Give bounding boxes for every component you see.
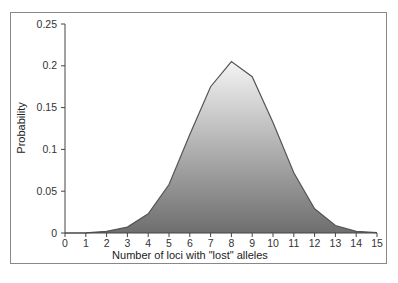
- x-ticks: 0123456789101112131415: [62, 233, 383, 249]
- x-tick-label: 2: [104, 237, 110, 249]
- probability-area: [65, 62, 377, 233]
- x-tick-label: 8: [228, 237, 234, 249]
- y-tick-label: 0.25: [37, 18, 58, 30]
- y-tick-label: 0: [51, 227, 57, 239]
- x-tick-label: 1: [83, 237, 89, 249]
- x-tick-label: 12: [309, 237, 321, 249]
- x-tick-label: 15: [371, 237, 383, 249]
- x-tick-label: 4: [145, 237, 151, 249]
- x-tick-label: 0: [62, 237, 68, 249]
- y-axis-label: Probability: [15, 102, 27, 154]
- x-tick-label: 5: [166, 237, 172, 249]
- area-chart: 00.050.10.150.20.25 01234567891011121314…: [0, 0, 398, 283]
- y-tick-label: 0.1: [42, 143, 57, 155]
- y-tick-label: 0.15: [37, 101, 58, 113]
- x-tick-label: 7: [208, 237, 214, 249]
- y-tick-label: 0.05: [37, 185, 58, 197]
- x-tick-label: 6: [187, 237, 193, 249]
- y-ticks: 00.050.10.150.20.25: [37, 18, 65, 239]
- x-tick-label: 9: [249, 237, 255, 249]
- x-tick-label: 11: [288, 237, 299, 249]
- x-tick-label: 14: [350, 237, 362, 249]
- y-tick-label: 0.2: [42, 59, 57, 71]
- x-tick-label: 13: [330, 237, 342, 249]
- x-tick-label: 10: [267, 237, 279, 249]
- x-axis-label: Number of loci with "lost" alleles: [112, 249, 268, 261]
- x-tick-label: 3: [124, 237, 130, 249]
